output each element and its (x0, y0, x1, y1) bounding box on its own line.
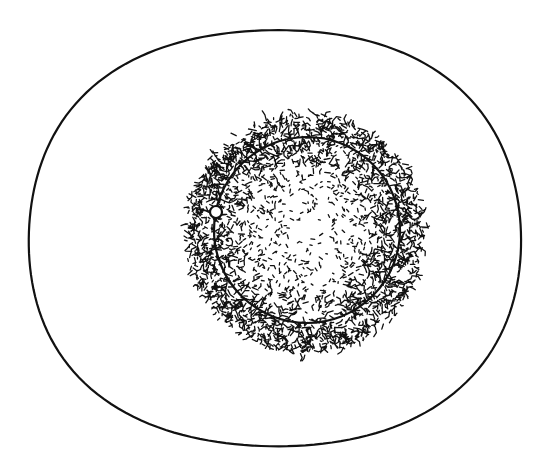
diagram-figure (0, 0, 537, 458)
outer-boundary-outline (29, 30, 521, 446)
diagram-canvas (0, 0, 537, 458)
hollow-marker-dot (210, 206, 222, 218)
